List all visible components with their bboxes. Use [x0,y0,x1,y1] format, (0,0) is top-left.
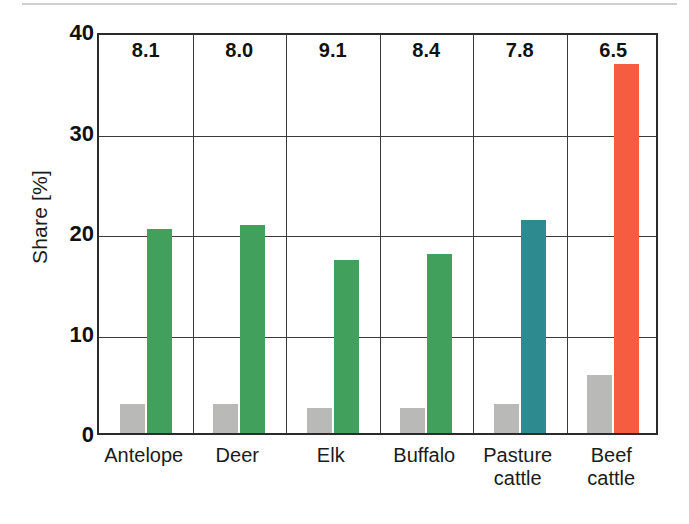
bar-gray [120,404,145,433]
x-tick-label: Beefcattle [565,444,659,490]
y-tick-label: 40 [50,22,94,44]
x-tick-label: Elk [284,444,378,467]
x-tick-label-line: Elk [284,444,378,467]
y-tick-label: 20 [50,223,94,245]
category-panel: 8.0 [193,35,287,433]
y-tick-label: 30 [50,123,94,145]
x-tick-label-line: Pasture [471,444,565,467]
category-panel: 8.1 [99,35,193,433]
scan-top-rule [22,3,677,5]
bar-colored [614,64,639,433]
y-tick-label: 10 [50,324,94,346]
bar-colored [334,260,359,433]
x-tick-label-line: Beef [565,444,659,467]
x-tick-label: Buffalo [378,444,472,467]
y-tick-label: 0 [50,424,94,446]
bar-value-label: 8.1 [99,40,193,60]
x-tick-label-line: cattle [471,467,565,490]
category-panel: 9.1 [286,35,380,433]
bar-gray [587,375,612,433]
bar-value-label: 8.4 [380,40,474,60]
x-tick-label-line: Buffalo [378,444,472,467]
bar-chart: Share [%] 010203040 8.18.09.18.47.86.5 A… [0,0,689,524]
bar-value-label: 9.1 [286,40,380,60]
bar-colored [521,220,546,433]
bar-value-label: 7.8 [473,40,567,60]
x-tick-label: Deer [191,444,285,467]
x-tick-label: Pasturecattle [471,444,565,490]
bar-value-label: 8.0 [193,40,287,60]
bar-colored [147,229,172,433]
bar-colored [427,254,452,433]
bar-gray [307,408,332,433]
category-panel: 6.5 [567,35,661,433]
category-panel: 7.8 [473,35,567,433]
x-tick-label-line: Antelope [97,444,191,467]
plot-area: 8.18.09.18.47.86.5 [97,33,658,435]
bar-value-label: 6.5 [567,40,661,60]
bar-gray [213,404,238,433]
bar-colored [240,225,265,433]
bar-gray [400,408,425,433]
bar-gray [494,404,519,433]
x-tick-label: Antelope [97,444,191,467]
x-tick-label-line: Deer [191,444,285,467]
y-axis-tick-labels: 010203040 [44,0,94,524]
x-tick-label-line: cattle [565,467,659,490]
category-panel: 8.4 [380,35,474,433]
